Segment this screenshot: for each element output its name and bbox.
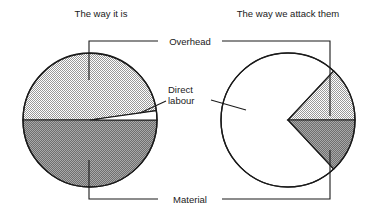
callout-material-label: Material (173, 194, 207, 205)
chart-title-left: The way it is (75, 8, 128, 19)
callout-direct-labour-label-line2: labour (168, 95, 194, 106)
chart-title-right: The way we attack them (237, 8, 340, 19)
callout-direct-labour-label-line1: Direct (168, 84, 193, 95)
pie-chart-right (221, 53, 355, 187)
pie-chart-left (23, 53, 157, 187)
two-pie-comparison-figure: The way it is The way we attack them Ove… (0, 0, 381, 212)
callout-overhead-label: Overhead (169, 36, 211, 47)
pie-slice-left-overhead (23, 53, 156, 120)
pie-slice-left-material (23, 120, 157, 187)
